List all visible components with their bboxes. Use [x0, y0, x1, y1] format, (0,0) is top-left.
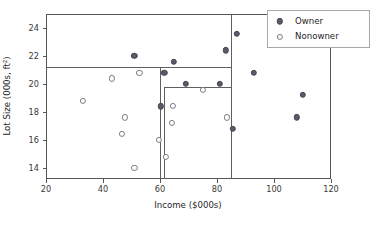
y-axis-label-text: Lot Size (000s, ft²)	[2, 56, 12, 135]
y-tick-label: 16	[29, 135, 39, 145]
y-tick	[43, 84, 47, 85]
y-tick-label: 18	[29, 107, 39, 117]
y-tick	[43, 112, 47, 113]
partition-line-vertical	[231, 14, 232, 179]
x-tick-label: 40	[98, 184, 108, 194]
legend-entry-owner: Owner	[274, 15, 363, 28]
x-tick	[274, 179, 275, 183]
x-tick-label: 20	[41, 184, 51, 194]
x-tick	[46, 179, 47, 183]
y-tick-label: 24	[29, 23, 39, 33]
x-tick	[331, 179, 332, 183]
legend: Owner Nonowner	[267, 10, 370, 48]
x-tick-label: 80	[212, 184, 222, 194]
y-tick	[43, 28, 47, 29]
partition-line-horizontal	[164, 87, 231, 88]
legend-label-owner: Owner	[295, 17, 323, 26]
nonowner-marker-icon	[274, 32, 286, 42]
legend-entry-nonowner: Nonowner	[274, 31, 363, 44]
x-tick	[217, 179, 218, 183]
y-tick-label: 14	[29, 163, 39, 173]
legend-label-nonowner: Nonowner	[295, 32, 339, 41]
y-tick	[43, 140, 47, 141]
y-axis-label: Lot Size (000s, ft²)	[2, 56, 12, 135]
partition-line-vertical	[164, 87, 165, 179]
y-tick	[43, 168, 47, 169]
y-tick-label: 22	[29, 51, 39, 61]
partition-line-vertical	[160, 67, 161, 179]
x-tick	[103, 179, 104, 183]
scatter-plot-figure: 20406080100120141618202224 Income ($000s…	[0, 0, 377, 225]
x-tick-label: 120	[323, 184, 339, 194]
owner-marker-icon	[274, 16, 286, 26]
x-tick-label: 60	[155, 184, 165, 194]
x-tick-label: 100	[266, 184, 282, 194]
x-tick	[160, 179, 161, 183]
y-tick	[43, 56, 47, 57]
partition-line-horizontal	[46, 67, 231, 68]
x-axis-label: Income ($000s)	[154, 200, 221, 210]
y-tick-label: 20	[29, 79, 39, 89]
